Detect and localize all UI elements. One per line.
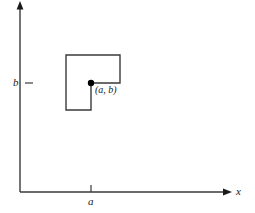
coordinate-diagram: b x a (a, b) — [0, 0, 255, 213]
point-marker — [88, 80, 94, 86]
diagram-canvas — [0, 0, 255, 213]
y-axis-label: b — [13, 77, 19, 88]
y-axis-arrowhead — [17, 1, 24, 10]
x-axis-arrowhead — [223, 188, 232, 195]
point-label: (a, b) — [95, 85, 117, 95]
x-axis-tick-label-a: a — [88, 196, 94, 207]
x-axis-label: x — [236, 186, 241, 197]
